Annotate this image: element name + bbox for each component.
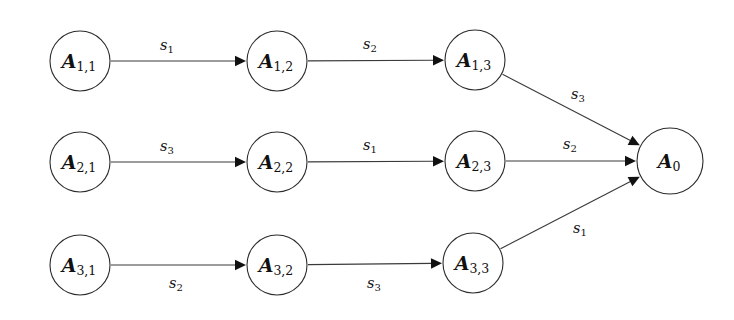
- graph-svg: A1,1A1,2A1,3A2,1A2,2A2,3A3,1A3,2A3,3A0 s…: [0, 0, 734, 320]
- edge-label-text: s3: [160, 138, 174, 156]
- node-a33[interactable]: A3,3: [443, 233, 503, 293]
- arrow-head-icon: [433, 156, 444, 166]
- edge-label-e-A23-A0: s2: [563, 136, 577, 154]
- edge-label-e-A21-A22: s3: [160, 138, 174, 156]
- edge-layer: [111, 55, 640, 270]
- edge-a13-to-a0: [503, 74, 640, 145]
- node-a21[interactable]: A2,1: [50, 132, 110, 192]
- node-a13[interactable]: A1,3: [445, 30, 505, 90]
- node-a0[interactable]: A0: [637, 128, 703, 194]
- edge-a22-to-a23: [308, 156, 444, 166]
- edge-a32-to-a33: [308, 258, 442, 268]
- edge-label-e-A13-A0: s3: [571, 86, 585, 104]
- edge-label-e-A32-A33: s3: [367, 275, 381, 293]
- edge-a31-to-a32: [111, 260, 246, 270]
- edge-a21-to-a22: [111, 157, 246, 167]
- edge-label-text: s2: [563, 136, 577, 154]
- arrow-head-icon: [625, 156, 636, 166]
- edge-label-layer: s1s2s3s3s1s2s2s3s1: [160, 36, 587, 293]
- arrow-head-icon: [235, 56, 246, 66]
- diagram-canvas: A1,1A1,2A1,3A2,1A2,2A2,3A3,1A3,2A3,3A0 s…: [0, 0, 734, 320]
- edge-a23-to-a0: [506, 156, 636, 166]
- edge-label-text: s1: [573, 220, 587, 238]
- edge-label-e-A12-A13: s2: [363, 36, 377, 54]
- node-a12[interactable]: A1,2: [247, 31, 307, 91]
- arrow-head-icon: [235, 260, 246, 270]
- edge-label-text: s1: [363, 137, 377, 155]
- node-a32[interactable]: A3,2: [247, 235, 307, 295]
- edge-label-e-A31-A32: s2: [169, 275, 183, 293]
- edge-label-text: s2: [169, 275, 183, 293]
- node-a11[interactable]: A1,1: [50, 31, 110, 91]
- arrow-head-icon: [433, 55, 444, 65]
- edge-a11-to-a12: [111, 56, 246, 66]
- edge-label-e-A33-A0: s1: [573, 220, 587, 238]
- edge-a12-to-a13: [308, 55, 444, 65]
- edge-label-e-A11-A12: s1: [160, 37, 174, 55]
- edge-label-text: s1: [160, 37, 174, 55]
- edge-label-text: s3: [571, 86, 585, 104]
- node-a31[interactable]: A3,1: [50, 235, 110, 295]
- edge-a33-to-a0: [501, 177, 640, 249]
- node-a23[interactable]: A2,3: [445, 131, 505, 191]
- edge-label-e-A22-A23: s1: [363, 137, 377, 155]
- edge-label-text: s2: [363, 36, 377, 54]
- arrow-head-icon: [431, 258, 442, 268]
- node-a22[interactable]: A2,2: [247, 132, 307, 192]
- arrow-head-icon: [235, 157, 246, 167]
- edge-label-text: s3: [367, 275, 381, 293]
